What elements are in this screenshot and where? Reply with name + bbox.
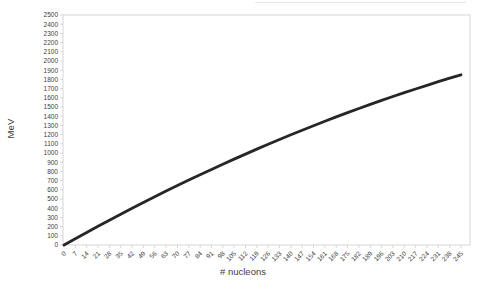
x-tick-label: 217 bbox=[406, 249, 419, 262]
y-tick-label: 0 bbox=[54, 241, 58, 248]
x-tick-label: 189 bbox=[361, 249, 374, 262]
x-tick-label: 56 bbox=[148, 249, 158, 259]
x-tick-label: 119 bbox=[248, 249, 261, 262]
y-tick-label: 1800 bbox=[44, 76, 59, 83]
x-tick-label: 238 bbox=[440, 249, 453, 262]
y-tick-label: 300 bbox=[47, 214, 58, 221]
y-tick-label: 2100 bbox=[44, 48, 59, 55]
x-tick-label: 49 bbox=[137, 249, 147, 259]
y-tick-label: 1400 bbox=[44, 113, 59, 120]
y-tick-label: 1000 bbox=[44, 149, 59, 156]
y-tick-label: 1900 bbox=[44, 67, 59, 74]
x-tick-label: 210 bbox=[395, 249, 408, 262]
x-tick-label: 7 bbox=[71, 249, 79, 257]
y-tick-label: 400 bbox=[47, 205, 58, 212]
binding-energy-chart: 0100200300400500600700800900100011001200… bbox=[0, 0, 483, 291]
y-tick-label: 200 bbox=[47, 223, 58, 230]
x-tick-label: 42 bbox=[125, 249, 135, 259]
y-tick-label: 900 bbox=[47, 159, 58, 166]
y-tick-label: 800 bbox=[47, 168, 58, 175]
y-tick-label: 2500 bbox=[44, 11, 59, 18]
y-tick-label: 1100 bbox=[44, 140, 58, 147]
x-axis-title: # nucleons bbox=[123, 266, 363, 277]
x-tick-label: 126 bbox=[259, 249, 272, 262]
y-tick-label: 1500 bbox=[44, 103, 59, 110]
x-tick-label: 21 bbox=[91, 249, 101, 259]
x-tick-label: 196 bbox=[372, 249, 385, 262]
y-tick-label: 1700 bbox=[44, 85, 59, 92]
x-axis-ticks: 0714212835424956637077849198105112119126… bbox=[60, 245, 465, 262]
x-tick-label: 28 bbox=[103, 249, 113, 259]
x-tick-label: 84 bbox=[193, 249, 203, 259]
y-tick-label: 100 bbox=[47, 232, 58, 239]
y-tick-label: 1300 bbox=[44, 122, 59, 129]
y-tick-label: 700 bbox=[47, 177, 58, 184]
y-tick-label: 500 bbox=[47, 195, 58, 202]
data-line bbox=[64, 75, 461, 245]
y-tick-label: 1200 bbox=[44, 131, 59, 138]
x-tick-label: 231 bbox=[429, 249, 442, 262]
y-tick-label: 2200 bbox=[44, 39, 59, 46]
y-axis-title: MeV bbox=[5, 99, 16, 159]
x-tick-label: 245 bbox=[452, 249, 465, 262]
x-tick-label: 224 bbox=[418, 249, 431, 262]
x-tick-label: 133 bbox=[270, 249, 283, 262]
y-tick-label: 1600 bbox=[44, 94, 59, 101]
y-tick-label: 600 bbox=[47, 186, 58, 193]
x-tick-label: 63 bbox=[159, 249, 169, 259]
x-tick-label: 14 bbox=[80, 249, 90, 259]
y-tick-label: 2000 bbox=[44, 57, 59, 64]
x-tick-label: 182 bbox=[349, 249, 362, 262]
plot-frame bbox=[63, 15, 470, 245]
y-tick-label: 2400 bbox=[44, 21, 59, 28]
x-tick-label: 0 bbox=[60, 249, 68, 257]
x-tick-label: 154 bbox=[304, 249, 317, 262]
x-tick-label: 112 bbox=[236, 249, 249, 262]
x-tick-label: 77 bbox=[182, 249, 192, 259]
x-tick-label: 175 bbox=[338, 249, 351, 262]
chart-svg: 0100200300400500600700800900100011001200… bbox=[0, 0, 483, 291]
x-tick-label: 35 bbox=[114, 249, 124, 259]
x-tick-label: 147 bbox=[293, 249, 306, 262]
x-tick-label: 203 bbox=[384, 249, 397, 262]
x-tick-label: 140 bbox=[281, 249, 294, 262]
y-tick-label: 2300 bbox=[44, 30, 59, 37]
x-tick-label: 105 bbox=[225, 249, 238, 262]
x-tick-label: 168 bbox=[327, 249, 340, 262]
y-axis-ticks: 0100200300400500600700800900100011001200… bbox=[44, 11, 63, 248]
x-tick-label: 161 bbox=[315, 249, 328, 262]
x-tick-label: 91 bbox=[205, 249, 215, 259]
x-tick-label: 70 bbox=[171, 249, 181, 259]
